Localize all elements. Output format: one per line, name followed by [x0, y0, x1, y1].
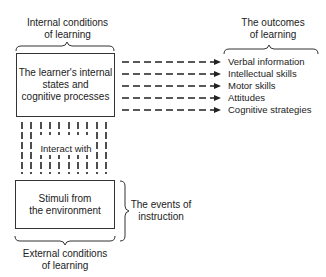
outcome-intellectual-skills: Intellectual skills — [228, 68, 297, 79]
internal-brace-icon — [16, 42, 114, 51]
events-of-instruction-label: The events of instruction — [130, 199, 192, 223]
outcomes-label: The outcomes of learning — [228, 17, 318, 41]
dashed-arrows — [122, 62, 214, 110]
outcome-attitudes: Attitudes — [228, 92, 265, 103]
outcome-cognitive-strategies: Cognitive strategies — [228, 104, 311, 115]
external-brace-icon — [15, 236, 115, 245]
arrowheads — [214, 59, 221, 113]
outcome-verbal-information: Verbal information — [228, 56, 305, 67]
internal-conditions-label: Internal conditions of learning — [15, 17, 120, 41]
events-brace-icon — [120, 181, 129, 241]
interact-label: Interact with — [38, 143, 94, 155]
learner-box: The learner's internal states and cognit… — [16, 53, 115, 117]
external-conditions-label: External conditions of learning — [15, 248, 115, 272]
outcome-motor-skills: Motor skills — [228, 80, 276, 91]
stimuli-box: Stimuli from the environment — [15, 180, 115, 229]
diagram-connectors — [0, 0, 326, 277]
outcomes-brace-icon — [224, 45, 318, 54]
